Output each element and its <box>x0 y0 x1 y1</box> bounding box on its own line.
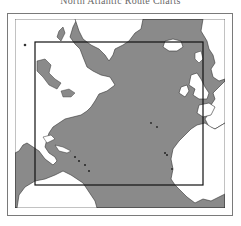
map-title: North Atlantic Route Charts <box>0 0 241 6</box>
iceland <box>163 39 183 51</box>
north-atlantic-map <box>15 19 225 208</box>
